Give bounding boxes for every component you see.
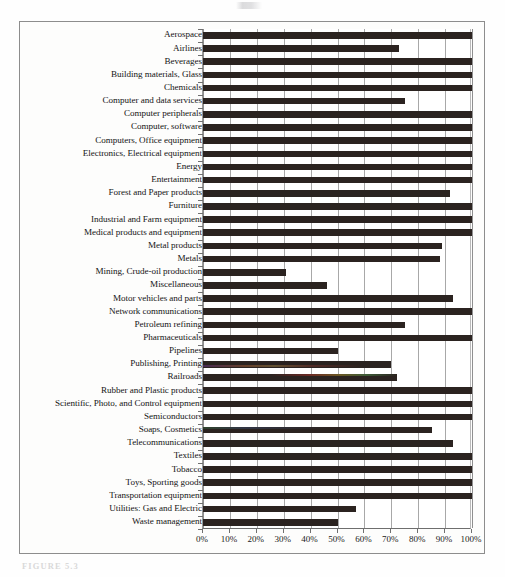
category-tick (198, 490, 203, 491)
bar-row (203, 292, 470, 305)
category-tick (198, 318, 203, 319)
bar-row (203, 134, 470, 147)
bar (203, 229, 472, 236)
bar (203, 216, 472, 223)
category-tick (198, 516, 203, 517)
bar-row (203, 450, 470, 463)
bar (203, 151, 472, 158)
category-label: Airlines (24, 44, 202, 54)
category-label: Transportation equipment (24, 491, 202, 501)
value-tick-label: 90% (436, 534, 453, 544)
bar (203, 282, 327, 289)
category-label: Computer and data services (24, 96, 202, 106)
category-label: Entertainment (24, 175, 202, 185)
bar-row (203, 318, 470, 331)
bar (203, 256, 440, 263)
value-tick-80 (417, 529, 418, 533)
bar (203, 137, 472, 144)
category-label: Chemicals (24, 83, 202, 93)
category-tick (198, 200, 203, 201)
bar-row (203, 384, 470, 397)
value-tick-label: 60% (355, 534, 372, 544)
bar (203, 45, 399, 52)
category-label: Energy (24, 162, 202, 172)
category-label: Tobacco (24, 465, 202, 475)
category-tick (198, 266, 203, 267)
bar (203, 335, 472, 342)
bar-row (203, 266, 470, 279)
category-label: Telecommunications (24, 438, 202, 448)
value-tick-70 (390, 529, 391, 533)
category-tick (198, 95, 203, 96)
bar-row (203, 397, 470, 410)
value-tick-label: 40% (301, 534, 318, 544)
bar (203, 98, 405, 105)
category-tick (198, 147, 203, 148)
bar-rows (203, 29, 470, 528)
category-label: Scientific, Photo, and Control equipment (24, 399, 202, 409)
category-tick (198, 187, 203, 188)
category-label: Computer peripherals (24, 109, 202, 119)
category-tick (198, 213, 203, 214)
bar (203, 466, 472, 473)
bar (203, 58, 472, 65)
bar-row (203, 42, 470, 55)
bar (203, 177, 472, 184)
category-tick (198, 397, 203, 398)
category-label: Semiconductors (24, 412, 202, 422)
category-label: Motor vehicles and parts (24, 294, 202, 304)
bar-row (203, 82, 470, 95)
value-tick-label: 70% (382, 534, 399, 544)
value-tick-10 (229, 529, 230, 533)
bar-row (203, 240, 470, 253)
category-label: Toys, Sporting goods (24, 478, 202, 488)
bar-row (203, 213, 470, 226)
bar (203, 361, 391, 368)
category-label: Textiles (24, 451, 202, 461)
value-tick-label: 100% (461, 534, 482, 544)
bar (203, 295, 453, 302)
category-label: Computers, Office equipment (24, 136, 202, 146)
gridline-100 (472, 29, 473, 528)
bar-row (203, 490, 470, 503)
category-tick (198, 463, 203, 464)
value-tick-label: 50% (328, 534, 345, 544)
value-tick-20 (256, 529, 257, 533)
category-tick (198, 161, 203, 162)
category-tick (198, 121, 203, 122)
category-label: Publishing, Printing (24, 359, 202, 369)
bar (203, 479, 472, 486)
bar-row (203, 516, 470, 529)
category-tick (198, 384, 203, 385)
bar-chart: AerospaceAirlinesBeveragesBuilding mater… (20, 22, 486, 555)
bar (203, 427, 432, 434)
category-tick (198, 332, 203, 333)
bar-row (203, 345, 470, 358)
bar-row (203, 187, 470, 200)
bar-row (203, 371, 470, 384)
bar-row (203, 95, 470, 108)
bar-row (203, 253, 470, 266)
figure-caption: FIGURE 5.3 (22, 561, 79, 571)
bar (203, 72, 472, 79)
bar (203, 414, 472, 421)
bar (203, 322, 405, 329)
bar-row (203, 279, 470, 292)
category-label: Network communications (24, 307, 202, 317)
bar-row (203, 503, 470, 516)
bar (203, 374, 397, 381)
value-tick-label: 80% (409, 534, 426, 544)
category-tick (198, 437, 203, 438)
bar-row (203, 424, 470, 437)
value-tick-label: 0% (196, 534, 208, 544)
category-label: Pharmaceuticals (24, 333, 202, 343)
page-background: AerospaceAirlinesBeveragesBuilding mater… (0, 0, 505, 577)
bar-row (203, 332, 470, 345)
value-tick-label: 30% (274, 534, 291, 544)
category-label: Pipelines (24, 346, 202, 356)
bar (203, 519, 338, 526)
category-label: Soaps, Cosmetics (24, 425, 202, 435)
bar-row (203, 305, 470, 318)
bar-row (203, 147, 470, 160)
category-label: Waste management (24, 517, 202, 527)
